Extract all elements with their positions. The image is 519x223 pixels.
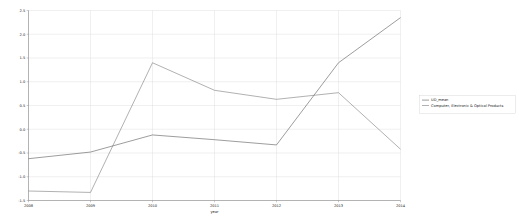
x-axis-title: year	[210, 210, 219, 214]
chart-figure: -1.5-1.0-0.50.00.51.01.52.02.5 200820092…	[0, 0, 519, 223]
x-tick-label-6: 2014	[396, 204, 406, 208]
y-tick-label-8: 2.5	[20, 9, 26, 13]
y-tick-label-3: 0.0	[20, 128, 26, 132]
line-chart: -1.5-1.0-0.50.00.51.01.52.02.5 200820092…	[0, 0, 519, 223]
y-tick-label-1: -1.0	[18, 175, 26, 179]
x-tick-labels: 2008200920102011201220132014	[24, 204, 406, 208]
y-tick-label-2: -0.5	[18, 151, 25, 155]
legend-label-0[interactable]: UD_mean	[431, 98, 448, 102]
x-tick-label-3: 2011	[210, 204, 219, 208]
x-tick-label-2: 2010	[148, 204, 158, 208]
y-tick-label-5: 1.0	[20, 80, 26, 84]
legend-label-1[interactable]: Computer, Electronic & Optical Products	[431, 104, 503, 108]
x-tick-label-4: 2012	[272, 204, 281, 208]
y-tick-labels: -1.5-1.0-0.50.00.51.01.52.02.5	[18, 9, 26, 203]
chart-legend[interactable]: UD_meanComputer, Electronic & Optical Pr…	[420, 96, 516, 114]
y-tick-label-0: -1.5	[18, 199, 25, 203]
x-tick-label-1: 2009	[86, 204, 96, 208]
y-tick-label-4: 0.5	[20, 104, 26, 108]
x-tick-label-0: 2008	[24, 204, 34, 208]
y-tick-label-7: 2.0	[20, 33, 26, 37]
y-tick-label-6: 1.5	[20, 56, 26, 60]
x-tick-label-5: 2013	[334, 204, 343, 208]
